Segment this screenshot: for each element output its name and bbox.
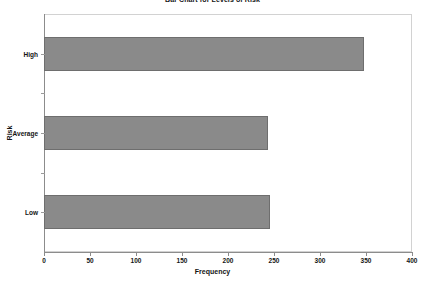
- x-tick-150: [182, 252, 183, 256]
- x-tick-label-0: 0: [42, 257, 46, 264]
- bar-high: [44, 37, 364, 71]
- x-tick-100: [136, 252, 137, 256]
- y-tick-label-average: Average: [13, 130, 38, 137]
- x-tick-300: [320, 252, 321, 256]
- x-tick-label-100: 100: [131, 257, 142, 264]
- x-tick-50: [90, 252, 91, 256]
- x-tick-label-150: 150: [177, 257, 188, 264]
- x-tick-label-400: 400: [407, 257, 418, 264]
- x-tick-0: [44, 252, 45, 256]
- bar-chart: Bar Chart for Levels of Risk 0 50 100 15…: [0, 0, 425, 283]
- y-tick-average: [41, 133, 45, 134]
- y-tick-low: [41, 212, 45, 213]
- x-tick-200: [228, 252, 229, 256]
- x-tick-label-250: 250: [269, 257, 280, 264]
- y-tick-separator-lower: [41, 173, 45, 174]
- x-axis-title: Frequency: [0, 268, 425, 275]
- bar-low: [44, 195, 270, 229]
- chart-title: Bar Chart for Levels of Risk: [0, 0, 425, 3]
- x-tick-label-300: 300: [315, 257, 326, 264]
- x-tick-label-200: 200: [223, 257, 234, 264]
- y-tick-label-high: High: [24, 50, 38, 57]
- x-tick-250: [274, 252, 275, 256]
- bar-average: [44, 116, 268, 150]
- x-tick-label-350: 350: [361, 257, 372, 264]
- x-tick-350: [366, 252, 367, 256]
- y-tick-label-low: Low: [25, 209, 38, 216]
- y-tick-high: [41, 54, 45, 55]
- x-tick-label-50: 50: [86, 257, 93, 264]
- y-tick-separator-upper: [41, 93, 45, 94]
- y-axis-title: Risk: [6, 126, 13, 141]
- x-tick-400: [412, 252, 413, 256]
